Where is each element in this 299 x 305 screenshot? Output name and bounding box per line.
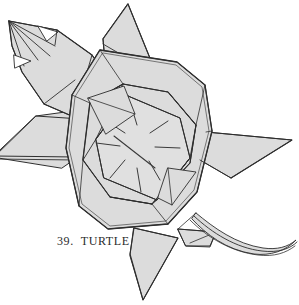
origami-figure: 39. TURTLE <box>0 0 299 305</box>
figure-caption: 39. TURTLE <box>57 234 130 249</box>
turtle-illustration <box>0 0 299 305</box>
